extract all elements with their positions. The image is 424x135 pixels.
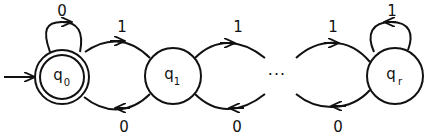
- transition-ellipsis-q1: 0: [195, 94, 265, 135]
- transition-q0-q0: 0: [46, 2, 81, 52]
- state-subscript: 0: [64, 77, 70, 88]
- state-diagram: 0 1 0 1 0 ··· 1 0 1: [0, 0, 424, 135]
- state-label: q: [386, 65, 396, 83]
- transition-label: 0: [57, 2, 67, 20]
- transition-label: 1: [387, 2, 397, 20]
- transition-label: 1: [117, 18, 127, 36]
- transition-label: 0: [119, 118, 129, 135]
- state-qr: q r: [367, 48, 423, 104]
- transition-qr-qr: 1: [371, 2, 411, 52]
- transition-q1-q0: 0: [84, 94, 150, 135]
- transition-label: 0: [333, 118, 343, 135]
- transition-q1-ellipsis: 1: [195, 18, 265, 58]
- state-q1: q 1: [145, 48, 201, 104]
- state-label: q: [53, 66, 63, 84]
- state-label: q: [164, 65, 174, 83]
- state-q0: q 0: [35, 50, 89, 104]
- transition-label: 1: [233, 18, 243, 36]
- transition-ellipsis-qr: 1: [296, 18, 370, 62]
- ellipsis: ···: [268, 65, 286, 84]
- transition-qr-ellipsis: 0: [296, 90, 370, 135]
- transition-label: 0: [232, 118, 242, 135]
- transition-label: 1: [328, 18, 338, 36]
- transition-q0-q1: 1: [85, 18, 150, 58]
- state-subscript: 1: [174, 76, 180, 87]
